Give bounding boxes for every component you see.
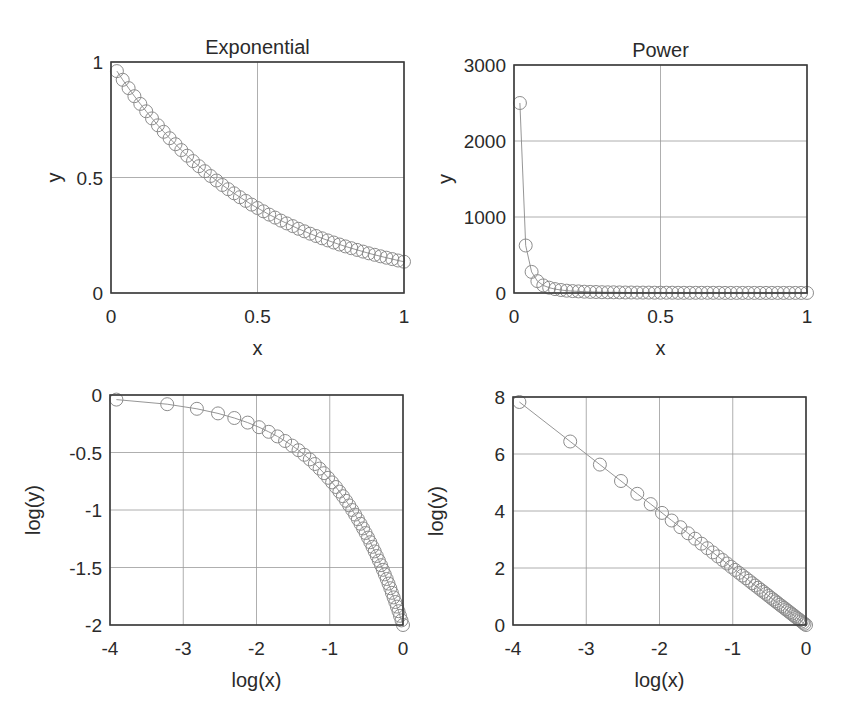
y-tick-label: 4 — [494, 501, 505, 522]
subplot-exponential-linear: Exponential x y 00.5100.51 — [43, 36, 411, 359]
y-tick-label: 1 — [92, 52, 103, 73]
y-tick-label: 0 — [92, 283, 103, 304]
x-tick-label: -4 — [505, 638, 522, 659]
grid-lines — [514, 65, 807, 293]
x-tick-label: 0 — [398, 638, 409, 659]
y-axis-label: log(y) — [425, 486, 447, 536]
x-tick-label: -1 — [321, 638, 338, 659]
y-tick-label: 0 — [495, 283, 506, 304]
y-tick-label: 0 — [494, 615, 505, 636]
x-tick-label: -1 — [724, 638, 741, 659]
y-tick-label: -1 — [85, 500, 102, 521]
data-line — [520, 103, 807, 293]
y-tick-label: 2 — [494, 558, 505, 579]
y-tick-label: 0 — [91, 385, 102, 406]
grid-lines — [111, 62, 404, 293]
x-tick-label: 0 — [801, 638, 812, 659]
y-tick-label: -1.5 — [69, 558, 102, 579]
subplot-power-linear: Power x y 00.510100020003000 — [434, 39, 814, 359]
y-axis-label: y — [434, 174, 456, 184]
y-axis-label: log(y) — [22, 485, 44, 535]
figure: Exponential x y 00.5100.51 Power x y 00.… — [0, 0, 842, 725]
y-tick-label: -0.5 — [69, 443, 102, 464]
x-tick-label: -3 — [578, 638, 595, 659]
x-axis-label: log(x) — [634, 669, 684, 691]
x-tick-label: 0.5 — [647, 306, 673, 327]
y-tick-label: 3000 — [464, 55, 506, 76]
x-tick-label: -2 — [651, 638, 668, 659]
y-tick-label: 1000 — [464, 207, 506, 228]
y-axis-label: y — [43, 173, 65, 183]
x-axis-label: x — [656, 337, 666, 359]
y-tick-label: 0.5 — [77, 168, 103, 189]
x-tick-label: 0.5 — [244, 306, 270, 327]
y-tick-label: 6 — [494, 444, 505, 465]
subplot-title: Power — [632, 39, 689, 61]
x-tick-label: -2 — [248, 638, 265, 659]
x-tick-label: 1 — [802, 306, 813, 327]
x-tick-label: 0 — [106, 306, 117, 327]
y-tick-label: 8 — [494, 387, 505, 408]
subplot-title: Exponential — [205, 36, 310, 58]
subplot-power-loglog: log(x) log(y) -4-3-2-1002468 — [425, 387, 813, 691]
x-tick-label: 1 — [399, 306, 410, 327]
data-line — [117, 71, 404, 262]
data-markers — [110, 65, 410, 269]
subplot-exponential-loglog: log(x) log(y) -4-3-2-10-2-1.5-1-0.50 — [22, 385, 410, 691]
x-axis-label: log(x) — [231, 669, 281, 691]
y-tick-label: -2 — [85, 615, 102, 636]
x-tick-label: -3 — [175, 638, 192, 659]
x-axis-label: x — [253, 337, 263, 359]
data-markers — [513, 97, 813, 300]
x-tick-label: 0 — [509, 306, 520, 327]
x-tick-label: -4 — [102, 638, 119, 659]
data-markers — [110, 393, 410, 631]
y-tick-label: 2000 — [464, 131, 506, 152]
